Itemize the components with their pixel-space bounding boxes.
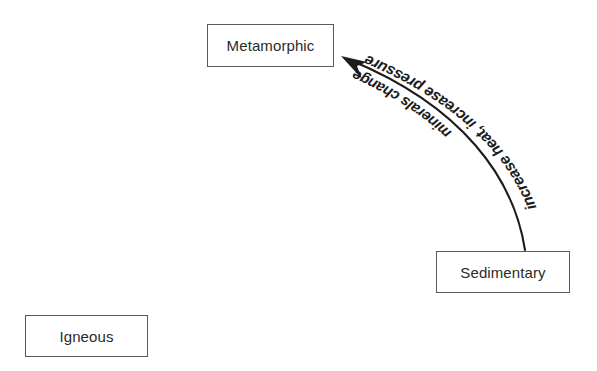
diagram-canvas: Metamorphic Sedimentary Igneous increase… [0,0,597,371]
arrowhead-icon [341,56,367,79]
node-box-sedimentary[interactable]: Sedimentary [436,251,570,293]
curved-arrow-line [350,60,525,250]
node-label-igneous: Igneous [59,329,113,344]
node-label-sedimentary: Sedimentary [460,265,545,280]
node-box-igneous[interactable]: Igneous [25,315,148,357]
edge-label-inner: minerals change [349,67,454,142]
node-box-metamorphic[interactable]: Metamorphic [207,24,334,67]
edge-label-outer: increase heat, increase pressure [361,52,539,213]
node-label-metamorphic: Metamorphic [227,38,315,53]
